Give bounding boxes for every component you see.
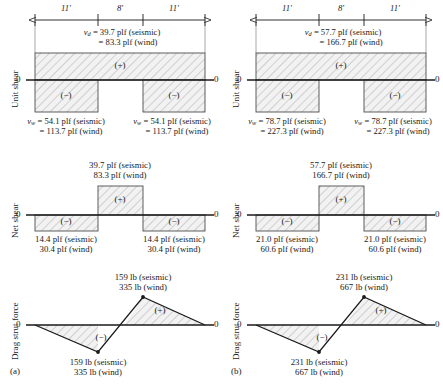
drag-strut-top-line1-a: 159 lb (seismic) xyxy=(115,272,172,282)
unit-shear-minus-right-b: (−) xyxy=(389,90,400,100)
net-shear-top-line1-a: 39.7 plf (seismic) xyxy=(89,160,151,170)
net-shear-top-line1-b: 57.7 plf (seismic) xyxy=(310,160,372,170)
drag-strut-top-line1-b: 231 lb (seismic) xyxy=(336,272,393,282)
net-shear-left-line1-a: 14.4 plf (seismic) xyxy=(35,234,97,244)
net-shear-left-line2-a: 30.4 plf (wind) xyxy=(39,244,92,254)
vd-label-line2-a: = 83.3 plf (wind) xyxy=(99,37,158,47)
vd-text-b: = 57.7 plf (seismic) xyxy=(312,27,382,37)
dimension-middle-a: 8′ xyxy=(117,3,123,13)
vw-left-text-b: = 78.7 plf (seismic) xyxy=(256,116,326,126)
vw-left-line2-a: = 113.7 plf (wind) xyxy=(40,126,103,136)
figure-panel-a: 11′ 8′ 11′ vd = 39.7 plf (seismic) = 83.… xyxy=(0,0,222,385)
net-shear-minus-right-a: (−) xyxy=(168,216,179,226)
vw-left-line2-b: = 227.3 plf (wind) xyxy=(260,126,323,136)
vw-right-text-a: = 54.1 plf (seismic) xyxy=(141,116,211,126)
unit-shear-plus-b: (+) xyxy=(335,60,346,70)
drag-strut-bottom-line2-a: 335 lb (wind) xyxy=(74,367,122,377)
net-shear-right-line2-a: 30.4 plf (wind) xyxy=(147,244,200,254)
net-shear-plus-b: (+) xyxy=(335,194,346,204)
net-shear-right-line1-a: 14.4 plf (seismic) xyxy=(143,234,205,244)
drag-strut-bottom-line1-b: 231 lb (seismic) xyxy=(291,357,348,367)
drag-strut-minus-b: (−) xyxy=(316,332,327,342)
drag-strut-axis-label-a: Drag strut force xyxy=(10,302,20,360)
net-shear-minus-left-b: (−) xyxy=(281,216,292,226)
vd-label-line2-b: = 166.7 plf (wind) xyxy=(319,37,382,47)
vw-left-text-a: = 54.1 plf (seismic) xyxy=(35,116,105,126)
net-shear-left-line2-b: 60.6 plf (wind) xyxy=(260,244,313,254)
net-shear-top-line2-b: 166.7 plf (wind) xyxy=(312,170,369,180)
unit-shear-plus-a: (+) xyxy=(114,60,125,70)
net-shear-zero-right-b: 0 xyxy=(435,209,440,219)
unit-shear-axis-label-b: Unit shear xyxy=(231,70,241,108)
net-shear-minus-right-b: (−) xyxy=(389,216,400,226)
net-shear-axis-label-b: Net shear xyxy=(231,203,241,238)
drag-strut-plus-b: (+) xyxy=(375,305,386,315)
caption-b: (b) xyxy=(231,366,242,376)
vw-right-text-b: = 78.7 plf (seismic) xyxy=(362,116,432,126)
net-shear-top-line2-a: 83.3 plf (wind) xyxy=(93,170,146,180)
drag-strut-bottom-line1-a: 159 lb (seismic) xyxy=(70,357,127,367)
caption-a: (a) xyxy=(10,366,20,376)
net-shear-right-line2-b: 60.6 plf (wind) xyxy=(368,244,421,254)
drag-strut-diagram-a xyxy=(26,295,214,354)
drag-strut-diagram-b xyxy=(247,295,435,354)
drag-strut-axis-label-b: Drag strut force xyxy=(231,302,241,360)
unit-shear-axis-label-a: Unit shear xyxy=(10,70,20,108)
unit-shear-zero-right-b: 0 xyxy=(435,74,440,84)
vd-text-a: = 39.7 plf (seismic) xyxy=(91,27,161,37)
net-shear-plus-a: (+) xyxy=(114,194,125,204)
figure-panel-b: 11′ 8′ 11′ vd = 57.7 plf (seismic) = 166… xyxy=(218,0,440,385)
net-shear-right-line1-b: 21.0 plf (seismic) xyxy=(364,234,426,244)
drag-strut-top-line2-b: 667 lb (wind) xyxy=(340,282,388,292)
dimension-left-b: 11′ xyxy=(282,3,292,13)
drag-strut-top-line2-a: 335 lb (wind) xyxy=(119,282,167,292)
drag-strut-plus-a: (+) xyxy=(154,305,165,315)
dimension-right-a: 11′ xyxy=(169,3,179,13)
drag-strut-bottom-line2-b: 667 lb (wind) xyxy=(295,367,343,377)
dimension-right-b: 11′ xyxy=(390,3,400,13)
vw-right-line2-b: = 227.3 plf (wind) xyxy=(366,126,429,136)
panel-a-graphics xyxy=(0,0,222,385)
panel-b-graphics xyxy=(218,0,443,385)
net-shear-left-line1-b: 21.0 plf (seismic) xyxy=(256,234,318,244)
net-shear-axis-label-a: Net shear xyxy=(10,203,20,238)
drag-strut-zero-right-b: 0 xyxy=(435,319,440,329)
net-shear-minus-left-a: (−) xyxy=(60,216,71,226)
unit-shear-minus-left-b: (−) xyxy=(281,90,292,100)
drag-strut-minus-a: (−) xyxy=(95,332,106,342)
unit-shear-minus-right-a: (−) xyxy=(168,90,179,100)
vw-right-line2-a: = 113.7 plf (wind) xyxy=(146,126,209,136)
net-shear-diagram-a xyxy=(26,186,214,231)
dimension-middle-b: 8′ xyxy=(338,3,344,13)
unit-shear-minus-left-a: (−) xyxy=(60,90,71,100)
net-shear-diagram-b xyxy=(247,186,435,231)
dimension-left-a: 11′ xyxy=(61,3,71,13)
